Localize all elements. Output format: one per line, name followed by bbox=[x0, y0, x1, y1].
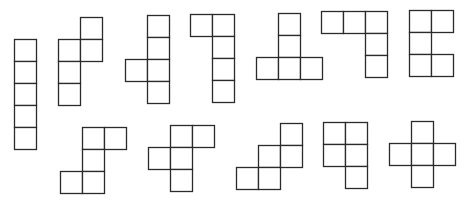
pentomino-Z bbox=[61, 128, 127, 194]
square-cell bbox=[410, 11, 432, 33]
square-cell bbox=[324, 145, 346, 167]
square-cell bbox=[83, 172, 105, 194]
square-cell bbox=[15, 62, 37, 84]
square-cell bbox=[15, 106, 37, 128]
square-cell bbox=[171, 170, 193, 192]
square-cell bbox=[366, 56, 388, 78]
square-cell bbox=[324, 123, 346, 145]
square-cell bbox=[126, 60, 148, 82]
square-cell bbox=[259, 168, 281, 190]
square-cell bbox=[213, 15, 235, 37]
square-cell bbox=[410, 55, 432, 77]
pentomino-P bbox=[324, 123, 368, 189]
pentomino-V bbox=[322, 12, 388, 78]
square-cell bbox=[410, 33, 432, 55]
square-cell bbox=[322, 12, 344, 34]
square-cell bbox=[83, 150, 105, 172]
square-cell bbox=[59, 84, 81, 106]
square-cell bbox=[346, 145, 368, 167]
square-cell bbox=[148, 16, 170, 38]
pentomino-I bbox=[15, 40, 37, 150]
square-cell bbox=[59, 62, 81, 84]
square-cell bbox=[346, 123, 368, 145]
square-cell bbox=[279, 14, 301, 36]
square-cell bbox=[81, 40, 103, 62]
square-cell bbox=[213, 37, 235, 59]
pentomino-shapes bbox=[0, 0, 465, 205]
pentomino-Y bbox=[126, 16, 170, 104]
pentomino-U bbox=[410, 11, 454, 77]
pentomino-X bbox=[390, 122, 456, 188]
square-cell bbox=[390, 144, 412, 166]
square-cell bbox=[344, 12, 366, 34]
square-cell bbox=[148, 60, 170, 82]
square-cell bbox=[237, 168, 259, 190]
square-cell bbox=[412, 122, 434, 144]
square-cell bbox=[81, 18, 103, 40]
square-cell bbox=[279, 58, 301, 80]
square-cell bbox=[59, 40, 81, 62]
pentomino-W bbox=[237, 124, 303, 190]
square-cell bbox=[213, 81, 235, 103]
square-cell bbox=[432, 55, 454, 77]
square-cell bbox=[432, 11, 454, 33]
square-cell bbox=[191, 15, 213, 37]
square-cell bbox=[412, 144, 434, 166]
square-cell bbox=[281, 146, 303, 168]
square-cell bbox=[366, 12, 388, 34]
square-cell bbox=[193, 126, 215, 148]
square-cell bbox=[301, 58, 323, 80]
square-cell bbox=[149, 148, 171, 170]
square-cell bbox=[15, 84, 37, 106]
square-cell bbox=[148, 38, 170, 60]
pentomino-L bbox=[191, 15, 235, 103]
pentomino-T bbox=[257, 14, 323, 80]
square-cell bbox=[61, 172, 83, 194]
square-cell bbox=[434, 144, 456, 166]
pentomino-F bbox=[149, 126, 215, 192]
square-cell bbox=[412, 166, 434, 188]
pentomino-diagram bbox=[0, 0, 465, 205]
square-cell bbox=[171, 148, 193, 170]
square-cell bbox=[346, 167, 368, 189]
square-cell bbox=[279, 36, 301, 58]
square-cell bbox=[366, 34, 388, 56]
square-cell bbox=[171, 126, 193, 148]
pentomino-N bbox=[59, 18, 103, 106]
square-cell bbox=[105, 128, 127, 150]
square-cell bbox=[148, 82, 170, 104]
square-cell bbox=[15, 40, 37, 62]
square-cell bbox=[281, 124, 303, 146]
square-cell bbox=[15, 128, 37, 150]
square-cell bbox=[257, 58, 279, 80]
square-cell bbox=[213, 59, 235, 81]
square-cell bbox=[259, 146, 281, 168]
square-cell bbox=[83, 128, 105, 150]
